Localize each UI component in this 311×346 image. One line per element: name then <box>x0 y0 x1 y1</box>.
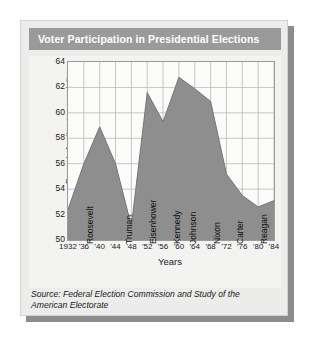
source-note: Source: Federal Election Commission and … <box>31 289 277 310</box>
x-axis-tick: 1932 <box>59 242 77 251</box>
x-axis-tick: '56 <box>158 242 168 251</box>
plot-panel: Percent of voting age population 5052545… <box>29 56 281 288</box>
x-axis-tick: '40 <box>94 242 104 251</box>
president-label: Reagan <box>259 214 269 244</box>
chart-title-banner: Voter Participation in Presidential Elec… <box>29 28 281 50</box>
president-label: Johnson <box>188 212 198 244</box>
president-label: Carter <box>235 220 245 244</box>
president-label: Truman <box>124 215 134 244</box>
president-label: Roosevelt <box>85 206 95 244</box>
y-axis-tick: 54 <box>56 183 65 193</box>
x-axis-tick: '84 <box>269 242 279 251</box>
president-label: Eisenhower <box>148 200 158 244</box>
y-axis-tick: 58 <box>56 132 65 142</box>
chart-card: Voter Participation in Presidential Elec… <box>20 20 288 316</box>
president-label: Nixon <box>212 222 222 244</box>
page-title: Voter Participation in Presidential Elec… <box>29 33 259 45</box>
x-axis-tick: '44 <box>110 242 120 251</box>
y-axis-tick: 60 <box>56 107 65 117</box>
y-axis-tick: 62 <box>56 81 65 91</box>
y-axis-tick: 52 <box>56 209 65 219</box>
data-area-fill <box>68 77 274 240</box>
y-axis-tick: 64 <box>56 56 65 66</box>
x-axis-tick: '72 <box>221 242 231 251</box>
president-label: Kennedy <box>172 210 182 244</box>
x-axis-title: Years <box>67 256 273 267</box>
x-axis-tick-labels: 1932'36'40'44'48'52'56'60'64'68'72'76'80… <box>67 242 275 256</box>
chart-figure-root: Voter Participation in Presidential Elec… <box>0 0 311 346</box>
area-chart-svg <box>68 62 274 240</box>
plot-area <box>67 61 275 241</box>
y-axis-tick-labels: 5052545658606264 <box>41 56 65 288</box>
y-axis-tick: 56 <box>56 158 65 168</box>
